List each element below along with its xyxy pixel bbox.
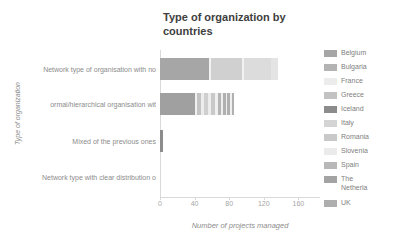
legend-item[interactable]: Iceland [324,104,394,117]
bar-segment [271,58,279,80]
x-axis-title: Number of projects managed [160,221,320,230]
legend-swatch [324,162,337,169]
category-label-group: Network type of organisation with noorma… [0,50,156,197]
bar-segment [160,58,209,80]
legend-label: Spain [341,160,359,169]
bar-segment [160,93,195,115]
legend-item[interactable]: France [324,76,394,89]
bar-segment [211,58,242,80]
legend-item[interactable]: Spain [324,160,394,173]
chart-title: Type of organization by countries [163,10,313,38]
legend-swatch [324,64,337,71]
legend-label: UK [341,198,351,207]
bar-row [160,130,163,152]
legend-swatch [324,92,337,99]
tick-label: 160 [293,200,305,207]
legend-swatch [324,176,337,183]
legend-label: Slovenia [341,146,368,155]
bar-row [160,166,161,188]
legend-label: Belgium [341,48,366,57]
y-axis-title: Type of organization [14,69,21,159]
legend-label: Romania [341,132,369,141]
legend-label: Bulgaria [341,62,367,71]
legend-item[interactable]: Romania [324,132,394,145]
category-label: Network type with clear distribution o [6,173,156,182]
bar-segment [244,58,271,80]
legend-item[interactable]: Italy [324,118,394,131]
bar-row [160,58,278,80]
tick-label: 120 [258,200,270,207]
legend-swatch [324,134,337,141]
legend-label: Italy [341,118,354,127]
bar-segment [160,130,163,152]
legend-label: France [341,76,363,85]
plot-area [160,50,308,197]
tick-label: 80 [225,200,233,207]
legend-label: Iceland [341,104,364,113]
bar-segment [160,166,161,188]
legend-item[interactable]: Belgium [324,48,394,61]
legend-swatch [324,78,337,85]
legend-item[interactable]: The Netherla [324,174,394,197]
legend: BelgiumBulgariaFranceGreeceIcelandItalyR… [324,48,394,212]
category-label: Mixed of the previous ones [6,137,156,146]
category-label: ormal/hierarchical organisation wit [6,100,156,109]
legend-swatch [324,50,337,57]
legend-swatch [324,200,337,207]
legend-item[interactable]: UK [324,198,394,211]
bar-row [160,93,234,115]
legend-label: Greece [341,90,364,99]
legend-item[interactable]: Bulgaria [324,62,394,75]
legend-swatch [324,148,337,155]
tick-label: 0 [158,200,162,207]
chart-figure: Type of organization by countries Networ… [0,0,395,241]
category-label: Network type of organisation with no [6,65,156,74]
bar-segment [232,93,235,115]
legend-item[interactable]: Greece [324,90,394,103]
tick-label: 40 [191,200,199,207]
legend-swatch [324,106,337,113]
x-axis-line [160,197,320,198]
legend-label: The Netherla [341,174,367,192]
legend-swatch [324,120,337,127]
legend-item[interactable]: Slovenia [324,146,394,159]
